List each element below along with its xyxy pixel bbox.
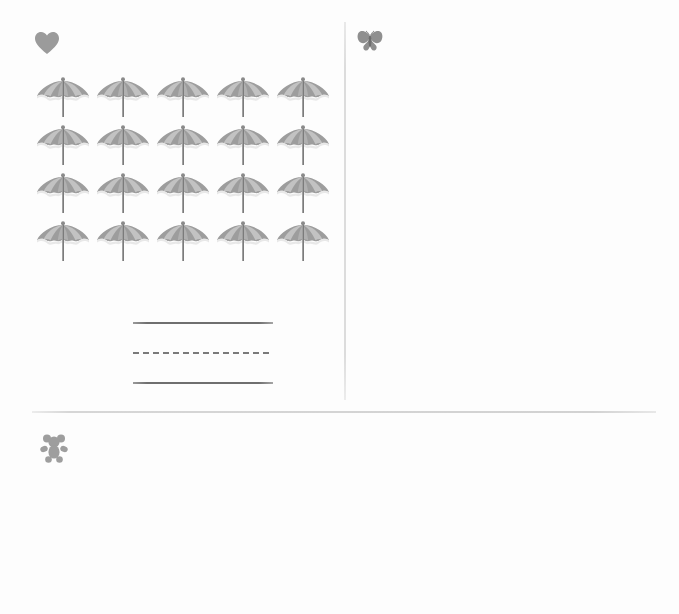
beach-umbrella-icon [273,122,333,170]
beach-umbrella-icon [153,122,213,170]
beach-umbrella-icon [93,122,153,170]
answer-line-dashed-middle[interactable] [133,348,273,358]
teddy-bear-icon [40,433,68,463]
umbrella-grid [33,74,333,266]
beach-umbrella-icon [273,74,333,122]
beach-umbrella-icon [273,170,333,218]
beach-umbrella-icon [93,170,153,218]
answer-lines-umbrellas[interactable] [133,318,273,388]
beach-umbrella-icon [33,170,93,218]
beach-umbrella-icon [213,218,273,266]
worksheet-sheet [0,0,679,614]
butterfly-icon [357,30,383,52]
heart-icon [34,31,60,55]
beach-umbrella-icon [213,122,273,170]
beach-umbrella-icon [33,74,93,122]
beach-balls-panel [345,0,679,410]
beach-umbrella-icon [213,170,273,218]
beach-umbrella-icon [273,218,333,266]
umbrellas-panel [0,0,344,410]
beach-umbrella-icon [33,218,93,266]
answer-line-solid-top[interactable] [133,318,273,328]
beach-umbrella-icon [93,74,153,122]
beach-umbrella-icon [153,218,213,266]
beach-umbrella-icon [33,122,93,170]
beach-umbrella-icon [93,218,153,266]
beach-umbrella-icon [213,74,273,122]
beach-umbrella-icon [153,74,213,122]
beach-umbrella-icon [153,170,213,218]
feathers-panel [0,413,679,614]
answer-line-solid-bottom[interactable] [133,378,273,388]
